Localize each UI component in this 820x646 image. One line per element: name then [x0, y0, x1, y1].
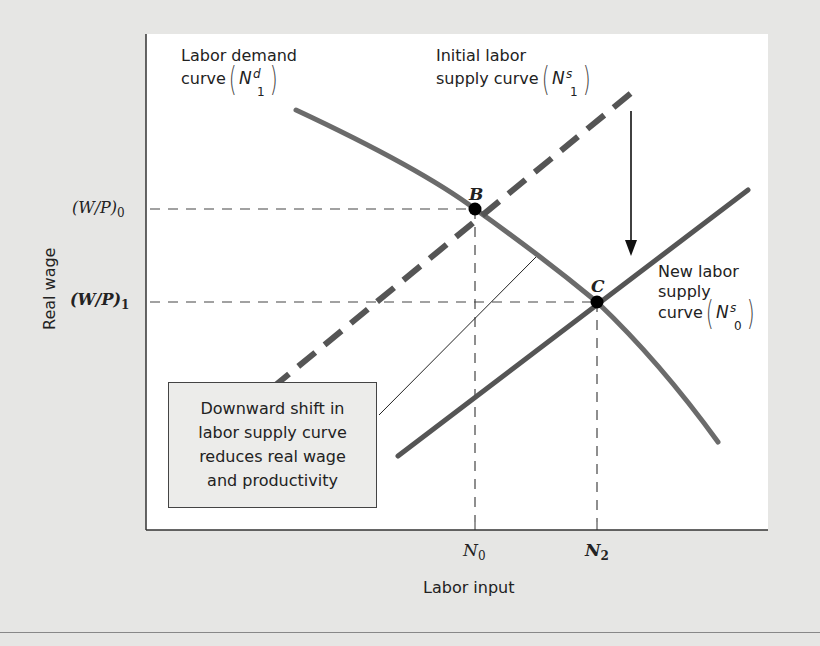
demand-symbol-base: N — [239, 68, 252, 88]
callout-line1: Downward shift in — [201, 397, 345, 421]
callout-line2: labor supply curve — [198, 421, 346, 445]
initial-supply-symbol-base: N — [552, 68, 565, 88]
close-paren: ) — [747, 296, 755, 330]
open-paren: ( — [228, 62, 236, 96]
y-axis-title: Real wage — [40, 248, 59, 330]
new-supply-symbol-base: N — [716, 302, 729, 322]
demand-symbol: Nd1 — [239, 62, 267, 96]
initial-supply-label-line2: supply curve — [436, 69, 539, 88]
x-tick-n2: N2 — [585, 540, 609, 563]
x-tick-n0: N0 — [463, 540, 486, 563]
y-tick-wp0-base: (W/P) — [72, 198, 117, 217]
labor-demand-label-line2-wrap: curve(Nd1) — [181, 62, 297, 96]
callout-line3: reduces real wage — [199, 445, 346, 469]
point-c-label: C — [591, 276, 605, 296]
point-b-marker — [469, 203, 482, 216]
new-supply-symbol: Ns0 — [716, 296, 744, 330]
initial-supply-symbol-sup: s — [566, 64, 572, 84]
y-tick-wp1-base: (W/P) — [70, 290, 121, 309]
labor-demand-label-line2: curve — [181, 69, 226, 88]
callout-box: Downward shift in labor supply curve red… — [168, 382, 377, 508]
y-tick-wp0-sub: 0 — [117, 206, 125, 220]
demand-symbol-sup: d — [253, 64, 261, 84]
open-paren: ( — [541, 62, 549, 96]
new-supply-label-line1: New labor — [658, 262, 757, 282]
shift-arrow-head-icon — [625, 240, 637, 256]
initial-supply-label-line2-wrap: supply curve(Ns1) — [436, 62, 593, 96]
labor-demand-label: Labor demand curve(Nd1) — [181, 46, 297, 96]
y-tick-wp1: (W/P)1 — [70, 290, 129, 312]
callout-line4: and productivity — [207, 469, 338, 493]
close-paren: ) — [270, 62, 278, 96]
close-paren: ) — [583, 62, 591, 96]
callout-leader-line — [379, 257, 536, 415]
x-tick-n0-sub: 0 — [478, 549, 486, 563]
new-supply-symbol-sup: s — [730, 298, 736, 318]
x-tick-n2-base: N — [585, 540, 601, 560]
initial-labor-supply-curve — [272, 89, 636, 388]
new-supply-label-line3: curve — [658, 303, 703, 322]
x-tick-n0-base: N — [463, 540, 478, 560]
y-tick-wp1-sub: 1 — [121, 298, 129, 312]
initial-supply-label: Initial labor supply curve(Ns1) — [436, 46, 593, 96]
initial-supply-symbol: Ns1 — [552, 62, 580, 96]
point-c-marker — [591, 296, 604, 309]
open-paren: ( — [705, 296, 713, 330]
demand-symbol-sub: 1 — [257, 82, 265, 102]
y-tick-wp0: (W/P)0 — [72, 198, 125, 220]
x-axis-title: Labor input — [423, 578, 514, 597]
new-supply-symbol-sub: 0 — [734, 316, 742, 336]
x-tick-n2-sub: 2 — [601, 549, 609, 563]
new-supply-label-line3-wrap: curve(Ns0) — [658, 296, 757, 330]
initial-supply-symbol-sub: 1 — [570, 82, 578, 102]
new-supply-label: New labor supply curve(Ns0) — [658, 262, 757, 330]
point-b-label: B — [469, 184, 483, 204]
